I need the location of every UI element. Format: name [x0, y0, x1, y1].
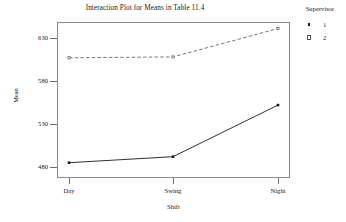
legend-item-label: 2: [323, 34, 326, 41]
data-point[interactable]: [172, 56, 174, 58]
legend-item-label: 1: [323, 21, 326, 28]
data-point[interactable]: [68, 161, 71, 164]
data-point[interactable]: [172, 155, 175, 158]
legend-marker-filled-square-icon: [304, 23, 314, 26]
legend-marker-open-square-icon: [304, 35, 314, 39]
legend: Supervisor 1 2: [294, 5, 346, 44]
data-point[interactable]: [277, 27, 279, 29]
data-point[interactable]: [68, 57, 70, 59]
series-line-1: [69, 105, 278, 163]
legend-title: Supervisor: [294, 5, 346, 12]
data-point[interactable]: [277, 104, 280, 107]
series-line-2: [69, 29, 278, 58]
legend-item-2[interactable]: 2: [294, 31, 346, 44]
chart-root: Interaction Plot for Means in Table 11.4…: [0, 0, 346, 222]
legend-item-1[interactable]: 1: [294, 18, 346, 31]
